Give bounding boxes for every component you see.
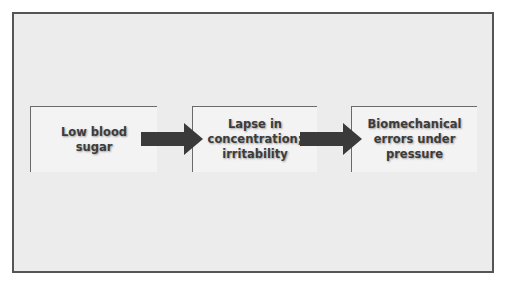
node-label: Biomechanical errors under pressure — [368, 117, 462, 162]
node-low-blood-sugar: Low blood sugar — [30, 106, 157, 172]
node-biomechanical-errors: Biomechanical errors under pressure — [351, 106, 477, 172]
arrow-right-icon — [141, 123, 203, 155]
arrow-right-icon — [300, 123, 362, 155]
node-label: Low blood sugar — [61, 125, 127, 155]
node-label: Lapse in concentration; irritability — [208, 117, 303, 162]
node-lapse-in-concentration: Lapse in concentration; irritability — [192, 106, 317, 172]
